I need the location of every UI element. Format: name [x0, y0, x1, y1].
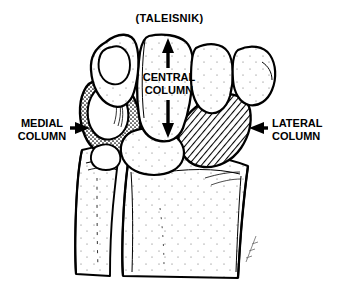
figure-title: (TALEISNIK) [0, 12, 339, 24]
pisiform-bone [91, 144, 120, 170]
carpus-line-drawing [0, 0, 339, 293]
lateral-column-label: LATERAL COLUMN [272, 117, 332, 142]
lateral-column-arrow [249, 122, 268, 134]
trapezium-bone [233, 47, 276, 106]
central-column-label: CENTRAL COLUMN [131, 71, 207, 96]
medial-column-label: MEDIAL COLUMN [14, 117, 70, 142]
figure-canvas: (TALEISNIK) MEDIAL COLUMN CENTRAL COLUMN… [0, 0, 339, 293]
artist-signature-mark [246, 236, 258, 262]
